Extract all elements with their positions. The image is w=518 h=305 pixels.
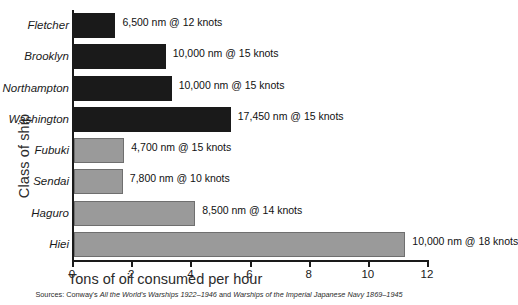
bar[interactable] — [74, 232, 405, 257]
bar-value-label: 6,500 nm @ 12 knots — [115, 16, 222, 28]
bar[interactable] — [74, 201, 195, 226]
category-label: Northampton — [0, 82, 69, 94]
bar[interactable] — [74, 44, 166, 69]
category-label: Hiei — [0, 238, 69, 250]
bar-value-label: 8,500 nm @ 14 knots — [195, 204, 302, 216]
x-tick-label: 8 — [305, 268, 311, 280]
x-tick — [309, 260, 311, 267]
bar[interactable] — [74, 13, 115, 38]
x-tick — [72, 260, 74, 267]
source-title-1: All the World's Warships 1922–1946 — [100, 290, 217, 299]
bar-value-label: 7,800 nm @ 10 knots — [123, 172, 230, 184]
x-tick-label: 10 — [361, 268, 374, 280]
bar-value-label: 10,000 nm @ 18 knots — [405, 235, 518, 247]
bar[interactable] — [74, 107, 231, 132]
x-tick — [250, 260, 252, 267]
bar[interactable] — [74, 169, 123, 194]
source-prefix: Sources: Conway's — [35, 290, 99, 299]
category-label: Brooklyn — [0, 50, 69, 62]
bar-value-label: 17,450 nm @ 15 knots — [231, 110, 344, 122]
bar-value-label: 10,000 nm @ 15 knots — [166, 47, 279, 59]
source-title-2: Warships of the Imperial Japanese Navy 1… — [233, 290, 402, 299]
bar-value-label: 10,000 nm @ 15 knots — [172, 79, 285, 91]
category-label: Fletcher — [0, 19, 69, 31]
x-axis-title: Tons of oil consumed per hour — [68, 271, 262, 287]
bar[interactable] — [74, 76, 172, 101]
category-label: Haguro — [0, 207, 69, 219]
plot-area: 024681012 6,500 nm @ 12 knots10,000 nm @… — [72, 10, 427, 260]
x-tick — [190, 260, 192, 267]
category-label: Sendai — [0, 175, 69, 187]
source-note: Sources: Conway's All the World's Warshi… — [0, 290, 438, 299]
category-label: Fubuki — [0, 144, 69, 156]
x-tick — [131, 260, 133, 267]
x-tick — [368, 260, 370, 267]
bar-value-label: 4,700 nm @ 15 knots — [124, 141, 231, 153]
category-label: Washington — [0, 113, 69, 125]
x-tick-label: 12 — [421, 268, 434, 280]
source-conjunction: and — [217, 290, 233, 299]
x-tick — [427, 260, 429, 267]
bar[interactable] — [74, 138, 124, 163]
